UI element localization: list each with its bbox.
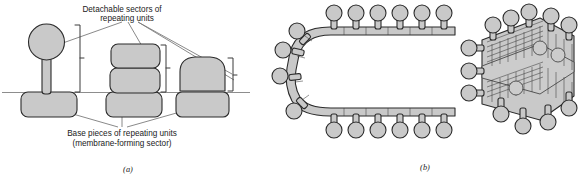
base-piece-3 [176, 92, 229, 117]
figure-svg: Detachable sectors of repeating units Ba… [0, 0, 581, 179]
dome-head-3 [180, 57, 225, 91]
particle-unit [286, 97, 308, 119]
panel-label-b: (b) [420, 163, 430, 172]
panel-b-cross-section [272, 5, 455, 138]
particle-unit [461, 63, 484, 79]
particle-unit [348, 5, 364, 29]
bottom-caption-line1: Base pieces of repeating units [67, 129, 177, 138]
particle-unit [551, 48, 565, 62]
particle-unit [509, 81, 523, 95]
particle-unit [461, 40, 484, 56]
particle-row-bottom-b [326, 114, 452, 138]
particle-unit [392, 5, 408, 29]
particle-unit [348, 114, 364, 138]
structure-dome [176, 57, 229, 117]
particle-unit [414, 5, 430, 29]
bottom-caption-line2: (membrane-forming sector) [72, 139, 171, 148]
panel-label-a: (a) [123, 165, 133, 174]
sphere-head-1 [29, 24, 65, 60]
stalk-1 [42, 55, 51, 94]
bottom-caption: Base pieces of repeating units (membrane… [67, 129, 177, 148]
panel-a-group: Detachable sectors of repeating units Ba… [2, 5, 250, 174]
particle-unit [370, 114, 386, 138]
particle-unit [436, 5, 452, 29]
block-lower-2 [110, 68, 160, 93]
figure-root: Detachable sectors of repeating units Ba… [0, 0, 581, 179]
particle-unit [436, 114, 452, 138]
bracket-2 [161, 45, 170, 92]
bracket-1 [75, 25, 84, 92]
top-caption-line2: repeating units [100, 14, 154, 23]
block-upper-2 [111, 44, 160, 68]
top-caption: Detachable sectors of repeating units [82, 5, 162, 23]
structure-stalked-sphere [21, 24, 77, 117]
base-piece-2 [106, 92, 162, 117]
top-caption-line1: Detachable sectors of [82, 5, 162, 14]
particle-unit [370, 5, 386, 29]
particle-unit [461, 85, 484, 101]
particle-unit [533, 41, 547, 55]
particle-unit [414, 114, 430, 138]
bracket-3 [228, 58, 237, 91]
particle-unit [326, 114, 342, 138]
particle-unit [326, 5, 342, 29]
particle-unit [392, 114, 408, 138]
structure-stacked-blocks [106, 44, 162, 117]
panel-b-three-dimensional [461, 4, 577, 134]
particle-row-left-3d [461, 40, 484, 101]
particle-row-top-b [326, 5, 452, 29]
base-piece-1 [21, 92, 77, 117]
